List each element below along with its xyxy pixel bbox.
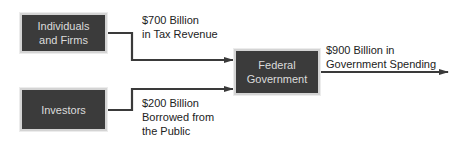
spending-line1: $900 Billion in bbox=[326, 43, 436, 57]
individuals-label-line1: Individuals bbox=[38, 20, 90, 32]
tax-line2: in Tax Revenue bbox=[142, 27, 218, 41]
federal-government-node: FederalGovernment bbox=[234, 49, 320, 95]
spending-line2: Government Spending bbox=[326, 57, 436, 71]
borrowed-line2: Borrowed from bbox=[142, 110, 214, 124]
investors-label: Investors bbox=[41, 103, 86, 117]
borrowed-line1: $200 Billion bbox=[142, 96, 214, 110]
tax-line1: $700 Billion bbox=[142, 13, 218, 27]
spending-label: $900 Billion in Government Spending bbox=[326, 43, 436, 71]
individuals-and-firms-node: Individualsand Firms bbox=[20, 13, 107, 53]
individuals-label-line2: and Firms bbox=[39, 34, 88, 46]
federal-label-line2: Government bbox=[247, 73, 308, 85]
borrowed-line3: the Public bbox=[142, 124, 214, 138]
federal-label-line1: Federal bbox=[258, 59, 295, 71]
investors-node: Investors bbox=[20, 88, 107, 131]
borrowed-label: $200 Billion Borrowed from the Public bbox=[142, 96, 214, 138]
tax-revenue-label: $700 Billion in Tax Revenue bbox=[142, 13, 218, 41]
